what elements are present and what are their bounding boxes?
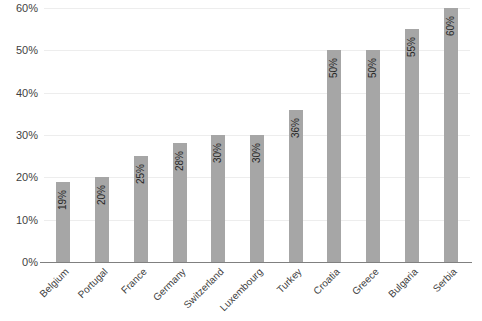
x-axis-category-label: Croatia: [312, 266, 343, 297]
bar-slot: 28%: [160, 8, 199, 262]
bar-value-label: 30%: [250, 143, 264, 163]
bar[interactable]: 36%: [289, 110, 303, 262]
bar-slot: 19%: [44, 8, 83, 262]
x-axis-labels: BelgiumPortugalFranceGermanySwitzerlandL…: [44, 264, 470, 321]
bar-value-label: 36%: [289, 118, 303, 138]
y-axis-tick-label: 40%: [0, 87, 38, 98]
bar[interactable]: 50%: [327, 50, 341, 262]
bar-slot: 20%: [83, 8, 122, 262]
y-axis-tick-label: 20%: [0, 172, 38, 183]
bar[interactable]: 60%: [444, 8, 458, 262]
x-axis-label-slot: Portugal: [83, 264, 122, 321]
bars-layer: 19%20%25%28%30%30%36%50%50%55%60%: [44, 8, 470, 262]
bar-slot: 30%: [238, 8, 277, 262]
x-axis-label-slot: Croatia: [315, 264, 354, 321]
bar-value-label: 50%: [366, 58, 380, 78]
bar-slot: 50%: [315, 8, 354, 262]
bar-value-label: 50%: [327, 58, 341, 78]
bar-slot: 36%: [276, 8, 315, 262]
bar-value-label: 25%: [134, 164, 148, 184]
bar-slot: 60%: [431, 8, 470, 262]
bar-slot: 25%: [121, 8, 160, 262]
bar-value-label: 20%: [95, 185, 109, 205]
x-axis-category-label: Turkey: [274, 266, 303, 295]
y-axis-tick-label: 10%: [0, 214, 38, 225]
bar-value-label: 19%: [56, 190, 70, 210]
bar[interactable]: 30%: [250, 135, 264, 262]
bar-slot: 30%: [199, 8, 238, 262]
bar[interactable]: 25%: [134, 156, 148, 262]
y-axis-tick-label: 0%: [0, 257, 38, 268]
x-axis-line: [40, 262, 472, 263]
x-axis-label-slot: Bulgaria: [393, 264, 432, 321]
x-axis-label-slot: Serbia: [431, 264, 470, 321]
y-axis-tick-label: 50%: [0, 45, 38, 56]
bar-slot: 50%: [354, 8, 393, 262]
bar-value-label: 28%: [173, 151, 187, 171]
x-axis-label-slot: Turkey: [276, 264, 315, 321]
bar-value-label: 30%: [211, 143, 225, 163]
x-axis-label-slot: Luxembourg: [238, 264, 277, 321]
bar[interactable]: 19%: [56, 182, 70, 262]
bar[interactable]: 30%: [211, 135, 225, 262]
bar[interactable]: 55%: [405, 29, 419, 262]
bar-chart: 0%10%20%30%40%50%60% 19%20%25%28%30%30%3…: [0, 0, 482, 321]
bar[interactable]: 28%: [173, 143, 187, 262]
x-axis-category-label: Belgium: [38, 266, 71, 299]
bar-value-label: 55%: [405, 37, 419, 57]
y-axis-tick-label: 60%: [0, 3, 38, 14]
y-axis: 0%10%20%30%40%50%60%: [0, 0, 38, 321]
y-axis-tick-label: 30%: [0, 130, 38, 141]
bar[interactable]: 50%: [366, 50, 380, 262]
x-axis-category-label: France: [119, 266, 149, 296]
x-axis-category-label: Serbia: [430, 266, 458, 294]
bar-slot: 55%: [393, 8, 432, 262]
x-axis-category-label: Greece: [350, 266, 381, 297]
bar[interactable]: 20%: [95, 177, 109, 262]
bar-value-label: 60%: [444, 16, 458, 36]
